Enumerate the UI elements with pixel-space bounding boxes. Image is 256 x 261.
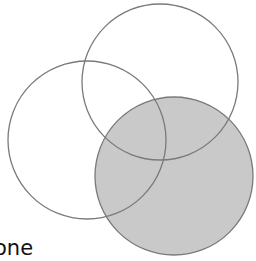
caption-text: one (0, 236, 33, 260)
venn-diagram: one (0, 0, 256, 261)
circle-bottom-right-shaded (95, 97, 253, 255)
venn-svg (0, 0, 256, 261)
